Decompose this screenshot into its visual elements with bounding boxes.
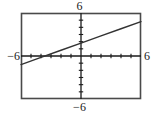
graph-figure: 6 −6 6 −6 (0, 0, 159, 117)
axes-group (21, 13, 141, 99)
graph-screenshot: 6 −6 6 −6 (0, 0, 159, 117)
plot-area (0, 0, 159, 117)
